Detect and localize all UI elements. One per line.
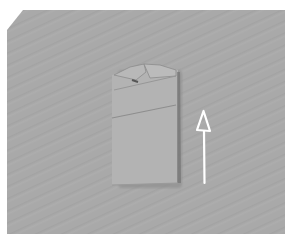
folded-fabric xyxy=(112,64,182,188)
arrow-up-icon xyxy=(197,111,210,183)
illustration xyxy=(0,0,290,245)
